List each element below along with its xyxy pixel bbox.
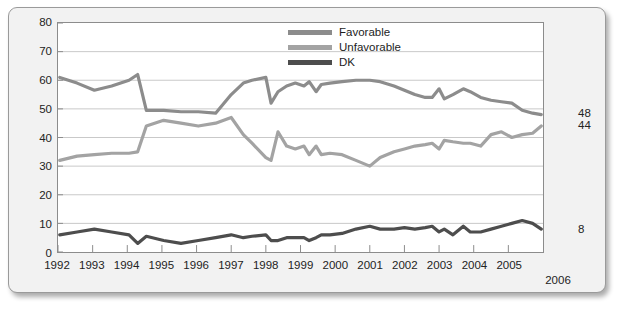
y-axis-label: 50 — [39, 103, 52, 115]
legend-swatch-dk — [288, 60, 332, 65]
series-line-unfavorable — [60, 117, 542, 166]
x-axis-label: 1994 — [114, 259, 140, 271]
end-value-label-favorable: 48 — [578, 107, 591, 119]
series-line-dk — [60, 221, 542, 244]
x-axis-label: 1992 — [44, 259, 70, 271]
y-axis-label: 60 — [39, 74, 52, 86]
legend-item-unfavorable[interactable]: Unfavorable — [288, 41, 438, 54]
x-axis-label: 1999 — [288, 259, 314, 271]
y-axis-label: 0 — [46, 247, 52, 259]
chart-figure: 01020304050607080 1992199319941995199619… — [0, 0, 623, 309]
y-axis-label: 70 — [39, 45, 52, 57]
x-axis-label: 1995 — [149, 259, 175, 271]
y-axis-label: 80 — [39, 16, 52, 28]
x-axis-label: 2001 — [357, 259, 383, 271]
x-axis-label: 2003 — [427, 259, 453, 271]
x-axis-label: 1997 — [218, 259, 244, 271]
x-axis: 1992199319941995199619971998199920002001… — [57, 259, 544, 275]
series-line-favorable — [60, 75, 542, 115]
legend-item-favorable[interactable]: Favorable — [288, 26, 438, 39]
legend-label: Unfavorable — [339, 41, 401, 54]
x-axis-label: 1993 — [79, 259, 105, 271]
y-axis-label: 30 — [39, 160, 52, 172]
x-axis-label: 2002 — [392, 259, 418, 271]
legend-label: Favorable — [339, 26, 390, 39]
legend-label: DK — [339, 56, 355, 69]
y-axis-label: 20 — [39, 189, 52, 201]
y-axis-label: 10 — [39, 218, 52, 230]
chart-legend: FavorableUnfavorableDK — [288, 26, 438, 71]
y-axis-label: 40 — [39, 132, 52, 144]
x-axis-label-2006: 2006 — [545, 274, 571, 286]
legend-item-dk[interactable]: DK — [288, 56, 438, 69]
x-axis-label: 2004 — [462, 259, 488, 271]
x-axis-label: 2005 — [496, 259, 522, 271]
x-axis-label: 2000 — [322, 259, 348, 271]
legend-swatch-unfavorable — [288, 45, 332, 50]
end-value-label-dk: 8 — [578, 223, 584, 235]
y-axis: 01020304050607080 — [12, 22, 52, 253]
legend-swatch-favorable — [288, 30, 332, 35]
x-axis-label: 1998 — [253, 259, 279, 271]
end-value-label-unfavorable: 44 — [578, 119, 591, 131]
x-axis-label: 1996 — [183, 259, 209, 271]
